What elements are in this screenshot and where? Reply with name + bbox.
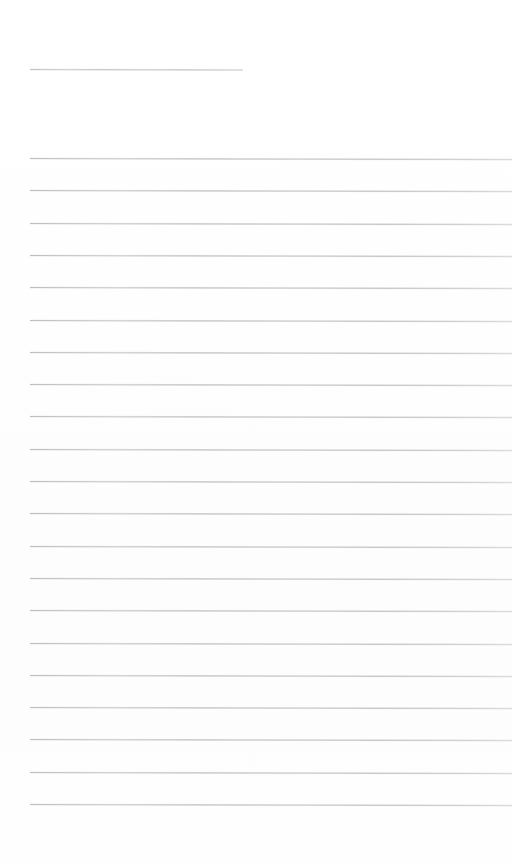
writing-line <box>30 513 512 515</box>
writing-line <box>30 320 512 322</box>
writing-line <box>30 643 512 645</box>
writing-line <box>30 481 512 483</box>
writing-line <box>30 449 512 451</box>
document-page <box>0 0 512 866</box>
writing-line <box>30 739 512 741</box>
bottom-blank-area <box>0 805 512 854</box>
writing-line <box>30 158 512 160</box>
writing-line <box>30 772 512 774</box>
writing-line <box>30 578 512 580</box>
writing-line <box>30 610 512 612</box>
top-blank-area <box>0 0 512 69</box>
writing-line <box>30 190 512 192</box>
writing-line <box>30 287 512 289</box>
header-body-gap <box>0 70 512 159</box>
writing-line <box>30 352 512 354</box>
writing-line <box>30 384 512 386</box>
writing-line <box>30 546 512 548</box>
writing-line <box>30 416 512 418</box>
writing-line <box>30 255 512 257</box>
writing-line <box>30 675 512 677</box>
writing-line <box>30 707 512 709</box>
writing-line <box>30 223 512 225</box>
